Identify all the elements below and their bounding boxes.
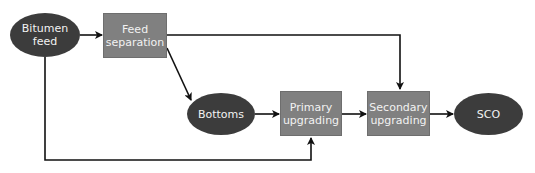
edge-feedsep-to-secondary (167, 35, 400, 89)
node-label: SCO (477, 108, 500, 121)
node-label: feed (33, 35, 57, 48)
node-label: Primary (290, 101, 333, 114)
node-secondary-upgrading: Secondaryupgrading (367, 91, 430, 136)
node-label: upgrading (370, 114, 426, 127)
node-label: Bitumen (22, 22, 68, 35)
connector-layer (0, 0, 535, 173)
edge-feedsep-to-bottoms (167, 48, 191, 100)
node-sco: SCO (454, 93, 523, 135)
node-primary-upgrading: Primaryupgrading (280, 91, 342, 136)
node-label: Bottoms (198, 108, 244, 121)
node-label: Feed (122, 23, 148, 36)
node-label: upgrading (283, 114, 339, 127)
node-feed-separation: Feedseparation (103, 13, 167, 58)
node-label: Secondary (369, 101, 427, 114)
node-label: separation (106, 36, 165, 49)
node-bitumen-feed: Bitumenfeed (10, 13, 80, 57)
node-bottoms: Bottoms (187, 93, 255, 135)
